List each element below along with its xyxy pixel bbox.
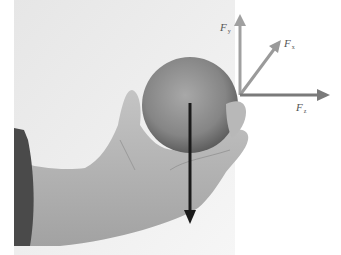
label-fy: Fy [220, 22, 231, 34]
label-fx: Fx [284, 38, 295, 50]
force-diagram: Fy Fx Fz [0, 0, 341, 255]
force-vector-fz [240, 89, 330, 101]
force-vector-fx [240, 40, 281, 95]
label-fz: Fz [296, 102, 306, 114]
force-vector-fy [234, 14, 246, 95]
